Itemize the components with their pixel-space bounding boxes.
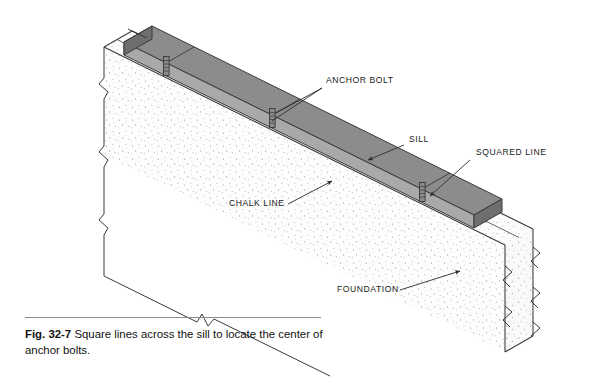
figure-illustration: ANCHOR BOLT SILL SQUARED LINE CHALK LINE… [0, 0, 592, 389]
anchor-bolt-3 [420, 183, 426, 202]
figure-number: Fig. 32-7 [25, 328, 71, 340]
label-foundation: FOUNDATION [337, 284, 399, 294]
caption-divider [25, 317, 321, 318]
label-anchor-bolt: ANCHOR BOLT [326, 75, 394, 85]
label-squared-line: SQUARED LINE [476, 147, 547, 157]
figure-caption-block: Fig. 32-7 Square lines across the sill t… [25, 317, 325, 358]
foundation-right-face [505, 229, 533, 352]
label-chalk-line: CHALK LINE [229, 198, 285, 208]
anchor-bolt-1 [164, 57, 170, 76]
anchor-bolt-2 [270, 109, 276, 128]
figure-caption: Fig. 32-7 Square lines across the sill t… [25, 327, 325, 358]
label-sill: SILL [409, 134, 429, 144]
